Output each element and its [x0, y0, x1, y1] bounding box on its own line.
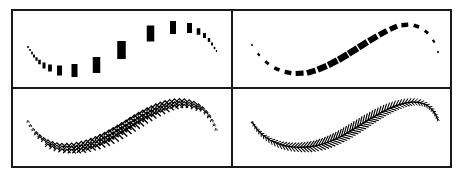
- dash-stamp: [327, 58, 339, 68]
- rectangle-stamp: [203, 33, 206, 38]
- rectangle-stamp: [29, 49, 31, 51]
- rectangle-stamp: [208, 38, 210, 42]
- figure-canvas: [0, 0, 462, 178]
- dash-stamp: [264, 60, 269, 65]
- rectangle-stamp: [93, 57, 101, 73]
- dash-stamp: [274, 66, 281, 72]
- brush-stroke-comparison-figure: [0, 0, 462, 178]
- dash-stamp: [401, 22, 408, 27]
- dash-stamp: [337, 52, 349, 63]
- dash-stamp: [284, 70, 292, 76]
- rectangle-stamp: [170, 21, 176, 34]
- dash-stamp: [347, 45, 359, 56]
- chevron-stamp: [437, 119, 440, 121]
- dash-stamp: [432, 39, 435, 43]
- panel-rotated-fern: [251, 98, 440, 152]
- rectangle-stamp: [211, 43, 213, 46]
- dash-stamp: [367, 33, 378, 43]
- rectangle-stamp: [35, 57, 37, 61]
- rectangle-stamp: [187, 23, 192, 33]
- rectangle-stamp: [38, 60, 41, 65]
- rectangle-stamp: [57, 66, 62, 76]
- dash-stamp: [357, 39, 369, 50]
- dash-stamp: [413, 24, 420, 29]
- panel-upright-rectangles: [27, 21, 217, 77]
- rectangle-stamp: [214, 47, 216, 49]
- rectangle-stamp: [48, 65, 52, 72]
- dash-stamp: [378, 28, 389, 37]
- rectangle-stamp: [31, 52, 33, 55]
- dash-stamp: [317, 63, 328, 72]
- rectangle-stamp: [147, 26, 155, 42]
- rectangle-stamp: [216, 50, 217, 52]
- panel-rotated-dashes: [251, 22, 439, 76]
- rectangle-stamp: [27, 46, 29, 48]
- dash-stamp: [424, 29, 429, 34]
- rectangle-stamp: [72, 64, 78, 77]
- dash-stamp: [437, 51, 439, 53]
- dash-stamp: [306, 68, 316, 76]
- rectangle-stamp: [33, 55, 35, 58]
- dash-stamp: [296, 71, 304, 76]
- dash-stamp: [257, 53, 261, 57]
- rectangle-stamp: [117, 41, 126, 59]
- dash-stamp: [389, 24, 398, 32]
- fern-spine: [252, 102, 438, 147]
- dash-stamp: [251, 44, 253, 47]
- panel-upright-chevrons: [27, 99, 218, 154]
- rectangle-stamp: [43, 63, 46, 69]
- rectangle-stamp: [197, 28, 201, 35]
